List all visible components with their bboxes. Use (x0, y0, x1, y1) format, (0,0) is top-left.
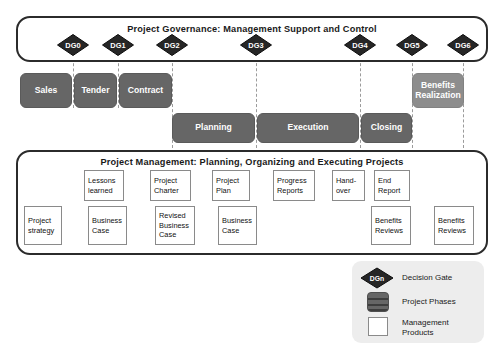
phase-stripe (368, 304, 388, 306)
legend-panel: DGn Decision Gate Project Phases Managem… (352, 261, 484, 343)
decision-gate-label: DG0 (56, 33, 90, 57)
phase-stripe (368, 309, 388, 311)
decision-gate-label: DG5 (395, 33, 429, 57)
decision-gate-label: DG2 (155, 33, 189, 57)
legend-swatch-project-phases (367, 292, 389, 312)
product-box-project-plan[interactable]: Project Plan (212, 170, 250, 201)
product-box-project-charter[interactable]: Project Charter (150, 170, 191, 201)
phase-stripe (368, 298, 388, 300)
product-box-benefits-reviews[interactable]: Benefits Reviews (434, 206, 474, 245)
decision-gate-dg0[interactable]: DG0 (56, 33, 90, 57)
legend-gate-label: DGn (360, 267, 394, 289)
decision-gate-dg1[interactable]: DG1 (101, 33, 135, 57)
phase-box-tender[interactable]: Tender (74, 73, 117, 108)
phase-box-sales[interactable]: Sales (20, 73, 72, 108)
decision-gate-label: DG4 (343, 33, 377, 57)
legend-label-project-phases: Project Phases (402, 297, 456, 307)
product-box-business-case[interactable]: Business Case (218, 206, 257, 245)
legend-label-management-products: Management Products (402, 318, 482, 339)
legend-row-management-products: Management Products (402, 316, 482, 340)
legend-swatch-decision-gate: DGn (360, 267, 394, 289)
product-box-hand-over[interactable]: Hand- over (332, 170, 365, 201)
decision-gate-label: DG3 (239, 33, 273, 57)
product-box-business-case[interactable]: Business Case (88, 206, 127, 245)
phase-box-contract[interactable]: Contract (119, 73, 172, 108)
phase-box-execution[interactable]: Execution (257, 113, 359, 143)
decision-gate-label: DG6 (446, 33, 480, 57)
decision-gate-dg3[interactable]: DG3 (239, 33, 273, 57)
decision-gate-dg6[interactable]: DG6 (446, 33, 480, 57)
legend-row-project-phases: Project Phases (402, 294, 482, 310)
decision-gate-label: DG1 (101, 33, 135, 57)
legend-label-decision-gate: Decision Gate (402, 273, 452, 283)
product-box-lessons-learned[interactable]: Lessons learned (84, 170, 124, 201)
product-box-benefits-reviews[interactable]: Benefits Reviews (371, 206, 411, 245)
product-box-revised-business-case[interactable]: Revised Business Case (155, 206, 195, 245)
product-box-project-strategy[interactable]: Project strategy (24, 206, 62, 245)
decision-gate-dg2[interactable]: DG2 (155, 33, 189, 57)
product-box-end-report[interactable]: End Report (374, 170, 410, 201)
product-box-progress-reports[interactable]: Progress Reports (273, 170, 315, 201)
management-title: Project Management: Planning, Organizing… (18, 157, 486, 167)
legend-swatch-management-products (368, 317, 388, 336)
decision-gate-dg5[interactable]: DG5 (395, 33, 429, 57)
phase-box-planning[interactable]: Planning (172, 113, 255, 143)
legend-row-decision-gate: Decision Gate (402, 270, 482, 286)
phase-box-benefits-realization[interactable]: Benefits Realization (412, 73, 464, 108)
diagram-canvas: Project Governance: Management Support a… (0, 0, 503, 347)
decision-gate-dg4[interactable]: DG4 (343, 33, 377, 57)
phase-box-closing[interactable]: Closing (361, 113, 412, 143)
